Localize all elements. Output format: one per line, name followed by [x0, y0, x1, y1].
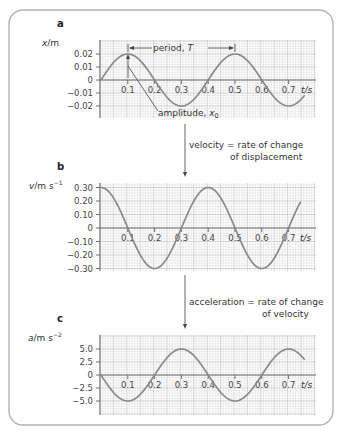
x-tick-label: 0.5 — [228, 380, 242, 390]
panel-label-a: a — [57, 18, 64, 29]
x-axis-label-c: t/s — [301, 380, 313, 390]
y-tick-label: −0.10 — [67, 237, 93, 247]
x-tick-label: 0.1 — [121, 85, 135, 95]
x-tick-label: 0.2 — [148, 233, 162, 243]
connector-text-1b: of displacement — [230, 152, 303, 162]
x-axis-label-b: t/s — [300, 233, 312, 243]
y-tick-label: −5.0 — [72, 396, 93, 406]
y-tick-label: 0.01 — [74, 62, 93, 72]
x-tick-label: 0.3 — [175, 85, 189, 95]
x-tick-label: 0.3 — [175, 380, 189, 390]
x-tick-label: 0.1 — [121, 380, 135, 390]
y-axis-label-a: x/m — [41, 38, 59, 48]
y-tick-label: −0.30 — [67, 264, 93, 274]
y-tick-label: −0.01 — [67, 88, 93, 98]
y-tick-label: 0.10 — [74, 210, 93, 220]
connector-text-2b: of velocity — [262, 309, 309, 319]
x-tick-label: 0.7 — [282, 85, 296, 95]
y-tick-label: 0.30 — [74, 183, 93, 193]
x-tick-label: 0.7 — [282, 380, 296, 390]
y-tick-label: 0 — [88, 75, 93, 85]
y-tick-label: 2.5 — [79, 357, 93, 367]
y-tick-label: 0.20 — [74, 196, 93, 206]
connector-text-2a: acceleration = rate of change — [189, 297, 324, 307]
y-tick-label: −0.02 — [67, 101, 93, 111]
shm-figure: a x/m 0.020.010−0.01−0.02 0.10.20.30.40.… — [0, 0, 343, 438]
y-tick-label: 0.02 — [74, 49, 93, 59]
period-label: period, T — [153, 43, 194, 53]
x-tick-label: 0.5 — [228, 85, 242, 95]
y-tick-label: 0 — [88, 223, 93, 233]
x-tick-label: 0.4 — [201, 233, 215, 243]
y-tick-label: −0.20 — [67, 250, 93, 260]
connector-text-1a: velocity = rate of change — [189, 140, 304, 150]
x-tick-label: 0.6 — [255, 233, 269, 243]
y-tick-label: 0 — [88, 370, 93, 380]
y-tick-label: −2.5 — [72, 383, 93, 393]
x-axis-label-a: t/s — [301, 85, 313, 95]
y-tick-label: 5.0 — [79, 344, 93, 354]
panel-label-c: c — [57, 313, 63, 324]
panel-label-b: b — [57, 161, 64, 172]
